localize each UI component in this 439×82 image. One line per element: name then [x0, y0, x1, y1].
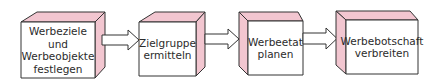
- process-flow-diagram: Werbeziele und Werbeobjekte festlegen Zi…: [0, 0, 439, 82]
- box-2-right-face: [196, 12, 205, 76]
- arrow-1-icon: [102, 30, 139, 50]
- step-2-label: Zielgruppe ermitteln: [139, 22, 196, 76]
- box-4-top-face: [336, 11, 418, 20]
- box-3-left-face: [239, 12, 248, 75]
- step-3-label: Werbeetat planen: [248, 21, 303, 75]
- box-2-top-face: [139, 12, 205, 22]
- arrow-3-icon: [303, 28, 337, 49]
- step-4-label: Werbebotschaft verbreiten: [346, 20, 418, 74]
- arrow-2-icon: [205, 29, 239, 49]
- box-3-top-face: [239, 12, 303, 21]
- step-1-label: Werbeziele und Werbeobjekte festlegen: [21, 22, 95, 78]
- box-1-top-face: [21, 12, 105, 22]
